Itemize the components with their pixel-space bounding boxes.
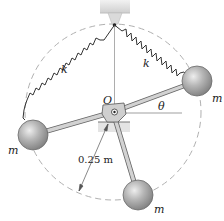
label-mass-left: m (8, 145, 18, 156)
label-spring-right: k (143, 58, 150, 69)
mass-left-ball (18, 120, 48, 150)
label-angle-theta: θ (158, 101, 165, 112)
label-pivot-O: O (103, 95, 112, 106)
diagram-canvas: k k O θ 0.25 m m m m (0, 0, 224, 221)
spring-left (23, 25, 115, 120)
mass-bottom-ball (123, 180, 153, 210)
label-mass-bottom: m (154, 204, 164, 215)
label-spring-left: k (61, 64, 68, 75)
ceiling-support (100, 0, 130, 27)
label-radius: 0.25 m (78, 155, 113, 165)
label-mass-right: m (212, 93, 222, 104)
mass-right-ball (182, 66, 212, 96)
mechanism-drawing (0, 0, 224, 221)
